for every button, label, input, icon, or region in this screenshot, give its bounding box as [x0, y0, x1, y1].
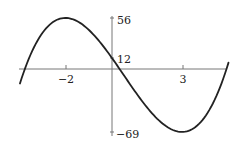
x-tick-label-3: 3 [180, 73, 187, 86]
cubic-curve [20, 18, 229, 132]
x-tick-label-neg2: −2 [58, 73, 74, 86]
y-tick-label-56: 56 [117, 14, 131, 27]
y-tick-label-neg69: −69 [116, 128, 139, 141]
function-plot: −2 3 56 12 −69 [0, 0, 238, 148]
y-tick-label-12: 12 [117, 53, 131, 66]
